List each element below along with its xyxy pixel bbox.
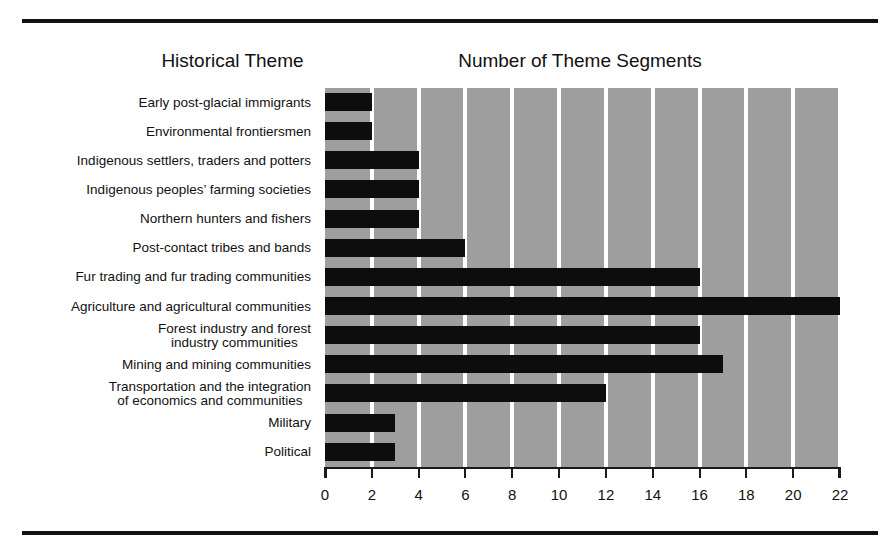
x-tick-12 (605, 467, 607, 478)
x-axis-ticks (0, 0, 891, 544)
x-tick-0 (324, 467, 326, 478)
x-tick-label-16: 16 (680, 486, 720, 503)
figure: Historical Theme Number of Theme Segment… (0, 0, 891, 544)
x-tick-label-14: 14 (633, 486, 673, 503)
x-tick-6 (464, 467, 466, 478)
x-tick-label-4: 4 (399, 486, 439, 503)
x-tick-label-12: 12 (586, 486, 626, 503)
x-tick-2 (371, 467, 373, 478)
x-tick-label-22: 22 (820, 486, 860, 503)
x-tick-label-20: 20 (773, 486, 813, 503)
x-tick-label-2: 2 (352, 486, 392, 503)
x-tick-10 (558, 467, 560, 478)
bottom-rule (22, 531, 878, 535)
x-tick-16 (699, 467, 701, 478)
x-tick-22 (839, 467, 841, 478)
x-tick-8 (511, 467, 513, 478)
x-tick-label-0: 0 (305, 486, 345, 503)
x-tick-label-18: 18 (726, 486, 766, 503)
x-tick-label-6: 6 (445, 486, 485, 503)
x-tick-20 (792, 467, 794, 478)
x-tick-label-8: 8 (492, 486, 532, 503)
x-tick-18 (745, 467, 747, 478)
x-tick-4 (418, 467, 420, 478)
x-tick-14 (652, 467, 654, 478)
x-tick-label-10: 10 (539, 486, 579, 503)
